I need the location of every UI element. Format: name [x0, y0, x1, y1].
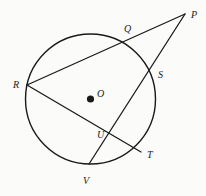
- point-label-u: U: [97, 130, 104, 140]
- point-label-s: S: [158, 70, 163, 80]
- point-label-t: T: [147, 150, 153, 160]
- point-label-o: O: [97, 89, 104, 99]
- point-label-v: V: [83, 176, 89, 186]
- point-label-r: R: [13, 80, 19, 90]
- chord-line-r-t: [27, 85, 141, 152]
- point-label-q: Q: [124, 24, 131, 34]
- point-label-p: P: [191, 10, 197, 20]
- geometry-figure: P Q R S O U T V: [0, 0, 206, 196]
- center-point-dot: [87, 95, 94, 102]
